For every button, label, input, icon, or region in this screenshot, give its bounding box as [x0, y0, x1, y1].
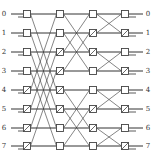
switch-box — [122, 125, 129, 132]
output-label: 1 — [145, 29, 151, 37]
output-label: 7 — [145, 142, 151, 150]
switch-box — [24, 30, 31, 37]
switch-box — [90, 87, 97, 94]
input-label: 3 — [1, 67, 7, 75]
switch-box — [57, 11, 64, 18]
input-label: 2 — [1, 48, 7, 56]
output-label: 5 — [145, 105, 151, 113]
switch-box — [122, 49, 129, 56]
switch-box — [122, 106, 129, 113]
network-canvas — [0, 0, 156, 156]
switch-box — [90, 125, 97, 132]
switch-box — [90, 68, 97, 75]
output-label: 0 — [145, 10, 151, 18]
switch-box — [90, 49, 97, 56]
switch-box — [24, 87, 31, 94]
switch-box — [57, 125, 64, 132]
input-label: 4 — [1, 86, 7, 94]
output-label: 2 — [145, 48, 151, 56]
switch-box — [24, 49, 31, 56]
switch-box — [57, 106, 64, 113]
switch-box — [24, 68, 31, 75]
input-label: 5 — [1, 105, 7, 113]
switch-box — [57, 49, 64, 56]
switch-box — [90, 11, 97, 18]
input-label: 6 — [1, 124, 7, 132]
switch-box — [24, 143, 31, 150]
switch-box — [57, 68, 64, 75]
input-label: 1 — [1, 29, 7, 37]
switch-box — [24, 11, 31, 18]
switch-box — [57, 143, 64, 150]
switch-box — [122, 143, 129, 150]
switch-box — [122, 11, 129, 18]
input-label: 0 — [1, 10, 7, 18]
switching-network-diagram: 01234567 01234567 — [0, 0, 156, 156]
switch-box — [122, 30, 129, 37]
switch-box — [57, 87, 64, 94]
output-label: 6 — [145, 124, 151, 132]
switch-box — [57, 30, 64, 37]
input-label: 7 — [1, 142, 7, 150]
switch-box — [90, 106, 97, 113]
switch-box — [90, 143, 97, 150]
switch-box — [90, 30, 97, 37]
switch-box — [24, 125, 31, 132]
switch-box — [122, 87, 129, 94]
switch-box — [24, 106, 31, 113]
output-label: 4 — [145, 86, 151, 94]
switch-box — [122, 68, 129, 75]
output-label: 3 — [145, 67, 151, 75]
